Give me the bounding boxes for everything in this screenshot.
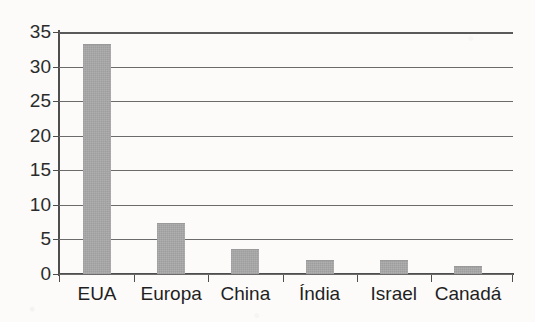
gridline-30 bbox=[59, 67, 513, 68]
bar-chart: 05101520253035 EUAEuropaChinaÍndiaIsrael… bbox=[0, 0, 535, 322]
bar-china bbox=[231, 249, 259, 274]
y-tick-label-10: 10 bbox=[10, 195, 51, 214]
gridline-0 bbox=[59, 274, 513, 275]
y-tick-label-25: 25 bbox=[10, 91, 51, 110]
y-tick-label-30: 30 bbox=[10, 57, 51, 76]
y-tick-mark-5 bbox=[53, 239, 59, 240]
gridline-25 bbox=[59, 101, 513, 102]
y-tick-label-0: 0 bbox=[10, 264, 51, 283]
gridline-20 bbox=[59, 136, 513, 137]
bar-ndia bbox=[306, 260, 334, 274]
x-tick-label-canad: Canadá bbox=[408, 283, 528, 305]
gridline-10 bbox=[59, 205, 513, 206]
x-tick-mark-0 bbox=[134, 275, 135, 282]
y-tick-label-5: 5 bbox=[10, 229, 51, 248]
y-tick-label-35: 35 bbox=[10, 22, 51, 41]
y-tick-mark-10 bbox=[53, 205, 59, 206]
x-axis-end-tick-right bbox=[512, 275, 513, 282]
y-tick-label-15: 15 bbox=[10, 160, 51, 179]
y-tick-mark-25 bbox=[53, 101, 59, 102]
bar-israel bbox=[380, 260, 408, 274]
x-tick-mark-4 bbox=[431, 275, 432, 282]
y-tick-label-20: 20 bbox=[10, 126, 51, 145]
plot-area bbox=[59, 32, 513, 274]
x-axis-end-tick-left bbox=[59, 275, 60, 282]
x-tick-mark-2 bbox=[283, 275, 284, 282]
y-tick-mark-35 bbox=[53, 32, 59, 33]
y-tick-mark-30 bbox=[53, 67, 59, 68]
gridline-5 bbox=[59, 239, 513, 240]
bar-europa bbox=[157, 223, 185, 274]
gridline-15 bbox=[59, 170, 513, 171]
y-tick-mark-15 bbox=[53, 170, 59, 171]
gridline-35 bbox=[59, 32, 513, 34]
x-tick-mark-1 bbox=[208, 275, 209, 282]
y-tick-mark-20 bbox=[53, 136, 59, 137]
x-tick-mark-3 bbox=[357, 275, 358, 282]
bar-eua bbox=[83, 44, 111, 274]
bar-canad bbox=[454, 266, 482, 274]
